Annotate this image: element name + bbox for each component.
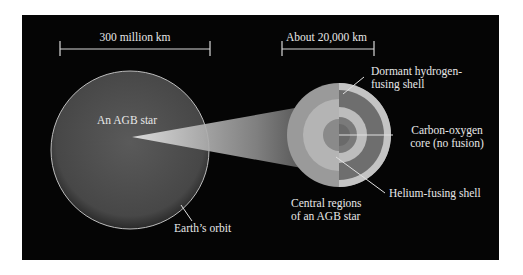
- hydrogen-shell-label-line1: Dormant hydrogen-: [371, 65, 462, 78]
- co-core-label-line2: core (no fusion): [397, 137, 497, 150]
- core-scale-label: About 20,000 km: [286, 31, 367, 44]
- hydrogen-shell-label: Dormant hydrogen- fusing shell: [371, 65, 462, 91]
- co-core-label-line1: Carbon-oxygen: [397, 124, 497, 137]
- core-region-label-line2: of an AGB star: [291, 210, 362, 223]
- helium-shell-label: Helium-fusing shell: [389, 187, 481, 200]
- agb-star: [51, 71, 209, 229]
- star-label: An AGB star: [97, 114, 157, 127]
- earth-orbit-label: Earth’s orbit: [174, 222, 231, 235]
- core-region-label-line1: Central regions: [291, 197, 362, 210]
- co-core-label: Carbon-oxygen core (no fusion): [397, 124, 497, 150]
- hydrogen-shell-label-line2: fusing shell: [371, 78, 462, 91]
- star-scale-label: 300 million km: [60, 31, 210, 44]
- core-region-label: Central regions of an AGB star: [291, 197, 362, 223]
